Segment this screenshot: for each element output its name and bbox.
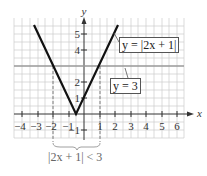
line-label-leader: [125, 68, 128, 78]
curve-label-box: y = |2x + 1|: [119, 37, 179, 53]
inequality-caption: |2x + 1| < 3: [48, 150, 102, 165]
svg-text:2: 2: [112, 120, 118, 132]
svg-text:4: 4: [75, 44, 81, 56]
svg-text:1: 1: [97, 120, 103, 132]
svg-text:−1: −1: [68, 124, 80, 136]
y-axis-arrow-icon: [82, 17, 87, 24]
svg-text:5: 5: [75, 28, 81, 40]
svg-text:−4: −4: [14, 120, 26, 132]
svg-text:−3: −3: [30, 120, 42, 132]
svg-text:3: 3: [128, 120, 134, 132]
svg-text:5: 5: [159, 120, 165, 132]
chart-canvas: −4−3 −2−1 12 34 56 54 21 −1 y x: [0, 0, 207, 176]
x-axis-label: x: [196, 107, 202, 119]
svg-text:1: 1: [75, 92, 81, 104]
line-label-box: y = 3: [110, 78, 141, 94]
svg-text:4: 4: [143, 120, 149, 132]
svg-text:6: 6: [174, 120, 180, 132]
interval-brace: [53, 143, 100, 150]
svg-text:−2: −2: [45, 120, 57, 132]
y-axis-label: y: [81, 5, 87, 17]
svg-text:2: 2: [75, 76, 81, 88]
x-axis-arrow-icon: [187, 112, 194, 117]
